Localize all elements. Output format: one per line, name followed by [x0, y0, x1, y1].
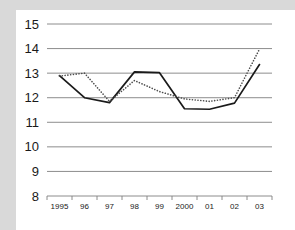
- x-tick-label: 1995: [51, 202, 69, 211]
- y-tick-label: 13: [25, 66, 39, 81]
- y-tick-label: 15: [25, 17, 39, 32]
- y-tick-label: 12: [25, 90, 39, 105]
- y-tick-label: 14: [25, 41, 39, 56]
- y-axis-tick-labels: 15141312111098: [25, 17, 39, 204]
- x-tick-label: 96: [80, 202, 89, 211]
- y-tick-label: 11: [26, 115, 40, 130]
- x-axis-tick-labels: 1995969798992000010203: [51, 202, 265, 211]
- chart-figure: 15141312111098 1995969798992000010203: [0, 0, 295, 230]
- x-tick-label: 99: [155, 202, 164, 211]
- x-tick-label: 02: [230, 202, 239, 211]
- series-line-dotted-series: [60, 49, 260, 101]
- y-tick-label: 9: [32, 164, 39, 179]
- series-line-solid-series: [60, 65, 260, 110]
- x-tick-label: 03: [255, 202, 264, 211]
- x-tick-label: 2000: [176, 202, 194, 211]
- gridlines-group: [47, 24, 272, 196]
- x-tick-label: 98: [130, 202, 139, 211]
- x-tick-label: 01: [205, 202, 214, 211]
- line-chart: 15141312111098 1995969798992000010203: [0, 0, 295, 230]
- x-axis-ticks: [47, 196, 272, 200]
- y-tick-label: 8: [32, 189, 39, 204]
- data-series-group: [60, 49, 260, 109]
- x-tick-label: 97: [105, 202, 114, 211]
- y-tick-label: 10: [25, 139, 39, 154]
